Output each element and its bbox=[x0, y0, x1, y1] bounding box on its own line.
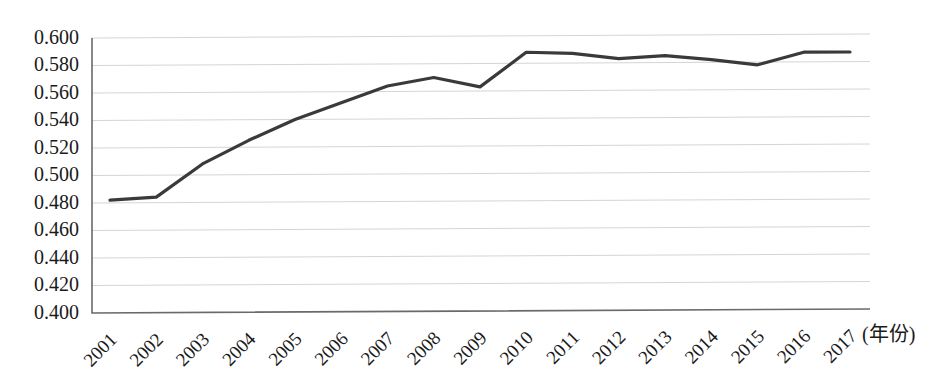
x-axis-tick-label: 2007 bbox=[357, 327, 399, 369]
x-axis-tick-labels: 2001200220032004200520062007200820092010… bbox=[79, 325, 861, 371]
gridline bbox=[92, 144, 870, 148]
y-axis-tick-label: 0.580 bbox=[34, 53, 79, 75]
x-axis-tick-label: 2005 bbox=[264, 328, 306, 370]
axis-lines bbox=[92, 38, 870, 313]
y-axis-tick-label: 0.480 bbox=[34, 191, 79, 213]
y-axis-tick-label: 0.560 bbox=[34, 81, 79, 103]
y-axis-tick-label: 0.440 bbox=[34, 246, 79, 268]
x-axis-tick-label: 2012 bbox=[588, 326, 630, 368]
chart-canvas: 0.6000.5800.5600.5400.5200.5000.4800.460… bbox=[0, 0, 940, 387]
line-chart: 0.6000.5800.5600.5400.5200.5000.4800.460… bbox=[0, 0, 940, 387]
x-axis-tick-label: 2001 bbox=[79, 329, 121, 371]
gridline bbox=[92, 117, 870, 121]
y-axis-tick-label: 0.460 bbox=[34, 218, 79, 240]
y-axis-tick-label: 0.500 bbox=[34, 163, 79, 185]
x-axis-tick-label: 2009 bbox=[449, 327, 491, 369]
x-axis-tick-label: 2004 bbox=[218, 328, 260, 370]
gridline bbox=[92, 89, 870, 93]
gridline bbox=[92, 199, 870, 203]
y-axis-tick-label: 0.400 bbox=[34, 301, 79, 323]
x-axis-tick-label: 2017 bbox=[819, 325, 861, 367]
y-axis-tick-label: 0.520 bbox=[34, 136, 79, 158]
x-axis-tick-label: 2016 bbox=[773, 325, 815, 367]
y-axis-tick-labels: 0.6000.5800.5600.5400.5200.5000.4800.460… bbox=[34, 26, 79, 323]
x-axis-tick-label: 2006 bbox=[310, 328, 352, 370]
x-axis-tick-label: 2002 bbox=[125, 329, 167, 371]
gridline bbox=[92, 282, 870, 286]
x-axis-tick-label: 2008 bbox=[403, 327, 445, 369]
x-axis-tick-label: 2015 bbox=[727, 326, 769, 368]
gridline bbox=[92, 172, 870, 176]
y-axis-tick-label: 0.420 bbox=[34, 273, 79, 295]
x-axis-tick-label: 2014 bbox=[680, 325, 722, 367]
x-axis-tick-label: 2013 bbox=[634, 326, 676, 368]
data-series bbox=[110, 52, 850, 200]
x-axis-tick-label: 2010 bbox=[495, 327, 537, 369]
x-axis-unit-label: (年份) bbox=[862, 323, 915, 346]
gridline bbox=[92, 254, 870, 258]
x-axis-tick-label: 2003 bbox=[172, 328, 214, 370]
axis-spine bbox=[92, 38, 870, 313]
y-axis-tick-label: 0.540 bbox=[34, 108, 79, 130]
x-axis-tick-label: 2011 bbox=[542, 327, 583, 368]
y-axis-tick-label: 0.600 bbox=[34, 26, 79, 48]
x-axis-unit-label: (年份) bbox=[862, 323, 915, 346]
gridline bbox=[92, 34, 870, 38]
data-line-series bbox=[110, 52, 850, 200]
gridline bbox=[92, 227, 870, 231]
